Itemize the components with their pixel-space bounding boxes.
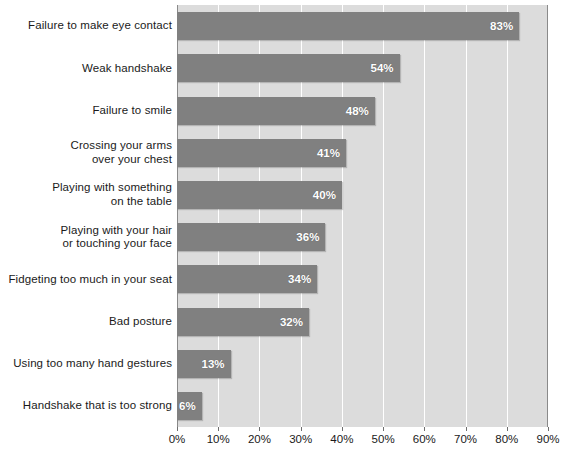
x-tick-mark <box>424 427 425 431</box>
x-axis: 0%10%20%30%40%50%60%70%80%90% <box>177 427 548 453</box>
category-label: Playing with somethingon the table <box>0 181 172 208</box>
bar: 36% <box>177 223 325 251</box>
category-label: Bad posture <box>0 315 172 329</box>
category-label-line: Using too many hand gestures <box>13 357 172 369</box>
x-tick-label: 90% <box>536 433 559 445</box>
bar: 83% <box>177 12 519 40</box>
bar-chart: Failure to make eye contactWeak handshak… <box>0 0 574 455</box>
category-label-line: or touching your face <box>0 237 172 251</box>
bar-value-label: 6% <box>179 400 196 412</box>
x-tick-mark <box>548 427 549 431</box>
bar: 41% <box>177 139 346 167</box>
category-label: Failure to smile <box>0 104 172 118</box>
bar: 13% <box>177 350 231 378</box>
category-label: Weak handshake <box>0 62 172 76</box>
bar: 34% <box>177 265 317 293</box>
category-label-line: Crossing your arms <box>71 139 173 151</box>
x-tick-label: 80% <box>495 433 518 445</box>
x-tick-mark <box>177 427 178 431</box>
x-tick-label: 20% <box>248 433 271 445</box>
bar: 6% <box>177 392 202 420</box>
category-label-line: Fidgeting too much in your seat <box>8 273 172 285</box>
category-label-line: Playing with something <box>52 181 172 193</box>
bar-value-label: 48% <box>346 105 369 117</box>
category-label-line: Weak handshake <box>82 62 172 74</box>
x-tick-label: 30% <box>289 433 312 445</box>
category-label: Playing with your hairor touching your f… <box>0 224 172 251</box>
bar: 54% <box>177 54 400 82</box>
category-label-line: Bad posture <box>109 315 172 327</box>
x-tick-mark <box>301 427 302 431</box>
category-label-line: Handshake that is too strong <box>23 399 172 411</box>
plot-area: 83%54%48%41%40%36%34%32%13%6% <box>177 5 548 427</box>
bar: 40% <box>177 181 342 209</box>
bar-value-label: 83% <box>490 20 513 32</box>
gridline-90 <box>548 5 549 427</box>
bar-value-label: 32% <box>280 316 303 328</box>
x-tick-mark <box>466 427 467 431</box>
bar-value-label: 41% <box>317 147 340 159</box>
category-label-line: Failure to smile <box>92 104 172 116</box>
bar-value-label: 13% <box>202 358 225 370</box>
category-label-line: Playing with your hair <box>60 224 172 236</box>
x-tick-label: 40% <box>330 433 353 445</box>
x-tick-mark <box>259 427 260 431</box>
x-tick-label: 10% <box>207 433 230 445</box>
x-tick-label: 60% <box>413 433 436 445</box>
category-label: Failure to make eye contact <box>0 19 172 33</box>
bar-value-label: 54% <box>371 62 394 74</box>
gridline-70 <box>466 5 467 427</box>
x-tick-mark <box>507 427 508 431</box>
x-tick-label: 50% <box>372 433 395 445</box>
x-tick-mark <box>218 427 219 431</box>
x-tick-label: 0% <box>169 433 186 445</box>
category-label: Fidgeting too much in your seat <box>0 273 172 287</box>
category-label-line: over your chest <box>0 153 172 167</box>
bar-value-label: 34% <box>288 273 311 285</box>
x-tick-mark <box>383 427 384 431</box>
category-label: Using too many hand gestures <box>0 357 172 371</box>
category-label-line: Failure to make eye contact <box>28 19 172 31</box>
bar-value-label: 40% <box>313 189 336 201</box>
bar: 48% <box>177 97 375 125</box>
bar: 32% <box>177 308 309 336</box>
category-label: Crossing your armsover your chest <box>0 139 172 166</box>
bar-value-label: 36% <box>296 231 319 243</box>
x-tick-mark <box>342 427 343 431</box>
category-label: Handshake that is too strong <box>0 399 172 413</box>
x-tick-label: 70% <box>454 433 477 445</box>
gridline-60 <box>424 5 425 427</box>
category-label-line: on the table <box>0 195 172 209</box>
category-axis: Failure to make eye contactWeak handshak… <box>0 5 172 427</box>
gridline-80 <box>507 5 508 427</box>
